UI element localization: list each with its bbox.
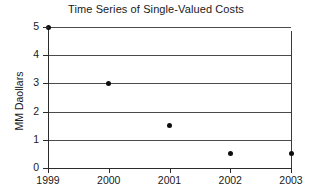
- x-tick-mark-2001: [170, 168, 171, 173]
- x-tick-label-2000: 2000: [86, 174, 132, 186]
- y-tick-label-1: 1: [22, 134, 39, 145]
- vertical-range-line-2003: [291, 31, 292, 168]
- data-point-2000: [106, 81, 111, 86]
- x-tick-label-1999: 1999: [25, 174, 71, 186]
- gridline-y-2: [48, 112, 291, 113]
- gridline-y-5: [48, 27, 291, 28]
- gridline-y-1: [48, 140, 291, 141]
- x-tick-label-2001: 2001: [147, 174, 193, 186]
- data-point-2002: [228, 151, 233, 156]
- y-tick-mark-3: [43, 83, 49, 84]
- chart-title: Time Series of Single-Valued Costs: [0, 3, 312, 16]
- y-tick-label-2: 2: [22, 106, 39, 117]
- y-tick-label-3: 3: [22, 77, 39, 88]
- x-tick-mark-1999: [48, 168, 49, 173]
- y-tick-label-5: 5: [22, 21, 39, 32]
- gridline-y-4: [48, 55, 291, 56]
- y-tick-mark-2: [43, 112, 49, 113]
- chart-container: Time Series of Single-Valued Costs MM Da…: [0, 0, 312, 192]
- data-point-2003: [289, 151, 294, 156]
- x-tick-mark-2002: [230, 168, 231, 173]
- y-tick-label-4: 4: [22, 49, 39, 60]
- x-tick-label-2003: 2003: [268, 174, 312, 186]
- y-tick-label-0: 0: [22, 162, 39, 173]
- plot-area: [48, 27, 291, 168]
- x-tick-mark-2000: [109, 168, 110, 173]
- y-tick-mark-4: [43, 55, 49, 56]
- x-tick-mark-2003: [291, 168, 292, 173]
- y-tick-mark-5: [43, 27, 49, 28]
- x-tick-label-2002: 2002: [207, 174, 253, 186]
- gridline-y-3: [48, 83, 291, 84]
- y-tick-mark-1: [43, 140, 49, 141]
- data-point-2001: [167, 123, 172, 128]
